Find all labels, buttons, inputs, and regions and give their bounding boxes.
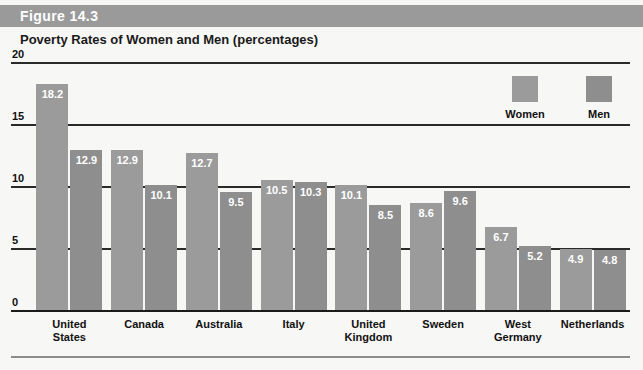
legend-label-women: Women (495, 108, 555, 120)
y-tick-label: 0 (12, 297, 18, 308)
x-category-label-line: Australia (182, 318, 257, 331)
bar-value-label: 8.5 (369, 209, 401, 221)
bar-men: 10.1 (145, 185, 177, 310)
bottom-divider-rule (11, 356, 630, 358)
gridline (30, 62, 630, 64)
x-category-label: WestGermany (481, 318, 556, 344)
bar-value-label: 5.2 (519, 250, 551, 262)
x-category-label-line: Italy (256, 318, 331, 331)
bar-women: 10.5 (261, 180, 293, 310)
x-category-label-line: States (32, 331, 107, 344)
bar-men: 10.3 (295, 182, 327, 310)
x-axis-baseline (11, 310, 630, 312)
y-tick-label: 10 (12, 173, 24, 184)
bar-value-label: 4.8 (594, 254, 626, 266)
x-category-label-line: Kingdom (331, 331, 406, 344)
bar-men: 5.2 (519, 246, 551, 310)
y-tick-rule (11, 186, 31, 188)
figure-header-band: Figure 14.3 (0, 5, 643, 27)
gridline (30, 124, 630, 126)
x-category-label-line: Canada (107, 318, 182, 331)
bar-women: 12.7 (186, 153, 218, 310)
x-category-label-line: United (331, 318, 406, 331)
figure-number-label: Figure 14.3 (20, 8, 98, 24)
legend-label-men: Men (569, 108, 629, 120)
bar-men: 4.8 (594, 250, 626, 310)
bar-women: 4.9 (560, 249, 592, 310)
figure-container: Figure 14.3 Poverty Rates of Women and M… (0, 0, 643, 370)
bar-value-label: 10.3 (295, 186, 327, 198)
bar-men: 8.5 (369, 205, 401, 310)
bar-value-label: 10.1 (145, 189, 177, 201)
y-tick-rule (11, 248, 31, 250)
bar-women: 12.9 (111, 150, 143, 310)
bar-value-label: 9.5 (220, 196, 252, 208)
bar-value-label: 12.9 (70, 154, 102, 166)
y-tick-label: 20 (12, 49, 24, 60)
figure-title: Poverty Rates of Women and Men (percenta… (20, 32, 318, 47)
x-category-label: UnitedStates (32, 318, 107, 344)
bar-value-label: 6.7 (485, 231, 517, 243)
bar-value-label: 18.2 (36, 88, 68, 100)
x-category-label-line: Netherlands (555, 318, 630, 331)
bar-women: 6.7 (485, 227, 517, 310)
bar-value-label: 10.1 (335, 189, 367, 201)
x-category-label: Netherlands (555, 318, 630, 331)
y-tick-rule (11, 62, 31, 64)
bar-value-label: 8.6 (410, 207, 442, 219)
x-category-label: UnitedKingdom (331, 318, 406, 344)
bar-women: 8.6 (410, 203, 442, 310)
x-category-label-line: Germany (481, 331, 556, 344)
bar-women: 18.2 (36, 84, 68, 310)
y-tick-rule (11, 124, 31, 126)
bar-value-label: 12.9 (111, 154, 143, 166)
x-category-label: Canada (107, 318, 182, 331)
bar-value-label: 9.6 (444, 195, 476, 207)
x-category-label-line: Sweden (406, 318, 481, 331)
bar-value-label: 10.5 (261, 184, 293, 196)
bar-women: 10.1 (335, 185, 367, 310)
bar-value-label: 12.7 (186, 157, 218, 169)
bar-men: 9.5 (220, 192, 252, 310)
bar-men: 12.9 (70, 150, 102, 310)
legend-swatch-men-icon (586, 76, 612, 102)
x-category-label: Italy (256, 318, 331, 331)
y-tick-label: 5 (12, 235, 18, 246)
bar-value-label: 4.9 (560, 253, 592, 265)
y-tick-label: 15 (12, 111, 24, 122)
x-category-label-line: United (32, 318, 107, 331)
legend-item-men: Men (569, 76, 629, 120)
x-category-label: Sweden (406, 318, 481, 331)
x-category-label-line: West (481, 318, 556, 331)
x-category-label: Australia (182, 318, 257, 331)
bar-men: 9.6 (444, 191, 476, 310)
legend-item-women: Women (495, 76, 555, 120)
legend-swatch-women-icon (512, 76, 538, 102)
